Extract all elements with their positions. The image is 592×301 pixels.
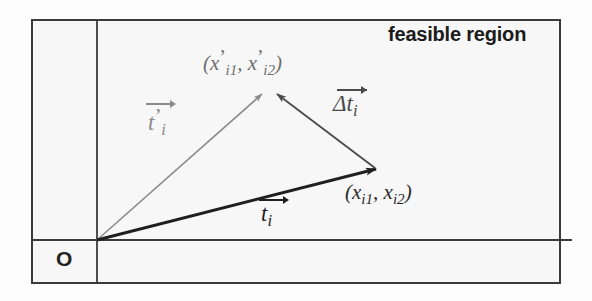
vector-label-delta-t-i: Δti <box>331 86 367 120</box>
vector-subscript: i <box>161 120 166 139</box>
vector-subscript: i <box>267 211 272 230</box>
vector-base: Δt <box>333 91 353 116</box>
coordinate-label-primed: (x’i1, x’i2) <box>203 48 282 78</box>
vector-subscript: i <box>353 101 358 120</box>
origin-label: O <box>56 248 72 269</box>
vector-arrow-overbar-icon <box>331 86 367 93</box>
x2-base: x <box>384 180 393 204</box>
x2-subscript: i2 <box>393 191 405 207</box>
x1-base: x <box>352 180 361 204</box>
feasible-region-label: feasible region <box>388 24 526 44</box>
paren-close: ) <box>405 180 412 204</box>
vector-label-body: Δti <box>331 92 367 120</box>
diagram-canvas <box>0 0 592 301</box>
frame-fill <box>33 21 559 282</box>
vector-label-t-i: ti <box>259 196 289 230</box>
feasible-region-figure: feasible region O (x’i1, x’i2) (xi1, xi2… <box>0 0 592 301</box>
vector-label-body: t’i <box>146 106 176 138</box>
x1-subscript: i1 <box>225 62 237 78</box>
vector-label-t-prime-i: t’i <box>146 100 176 138</box>
coordinate-label: (xi1, xi2) <box>345 182 412 207</box>
vector-arrow-overbar-icon <box>146 100 176 107</box>
paren-close: ) <box>275 51 282 75</box>
paren-open: ( <box>345 180 352 204</box>
paren-open: ( <box>203 51 210 75</box>
comma: , <box>237 51 248 75</box>
comma: , <box>373 180 384 204</box>
x2-base: x <box>248 51 257 75</box>
x1-base: x <box>210 51 219 75</box>
vector-label-body: ti <box>259 202 289 230</box>
x2-subscript: i2 <box>263 62 275 78</box>
x1-subscript: i1 <box>361 191 373 207</box>
vector-arrow-overbar-icon <box>259 196 289 203</box>
